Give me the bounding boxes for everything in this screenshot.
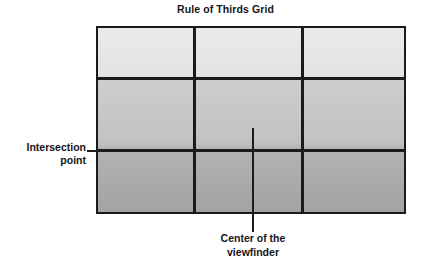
intersection-point-leader-line	[87, 150, 99, 152]
callout-intersection-point-line2: point	[60, 154, 86, 166]
diagram-canvas: Rule of Thirds Grid Intersection point C…	[0, 0, 425, 270]
viewfinder-grid-frame	[96, 26, 406, 214]
callout-intersection-point: Intersection point	[2, 141, 86, 167]
callout-center-of-viewfinder: Center of the viewfinder	[178, 232, 328, 259]
callout-center-of-viewfinder-line2: viewfinder	[178, 246, 328, 260]
diagram-title: Rule of Thirds Grid	[0, 3, 425, 15]
callout-center-of-viewfinder-line1: Center of the	[178, 232, 328, 246]
gridline-horizontal-top	[98, 77, 404, 80]
gridline-vertical-left	[193, 28, 196, 212]
gridline-horizontal-bottom	[98, 149, 404, 152]
callout-intersection-point-line1: Intersection	[26, 141, 86, 153]
grid-texture-overlay	[98, 28, 404, 212]
gridline-vertical-right	[301, 28, 304, 212]
center-of-viewfinder-leader-line	[252, 128, 254, 232]
